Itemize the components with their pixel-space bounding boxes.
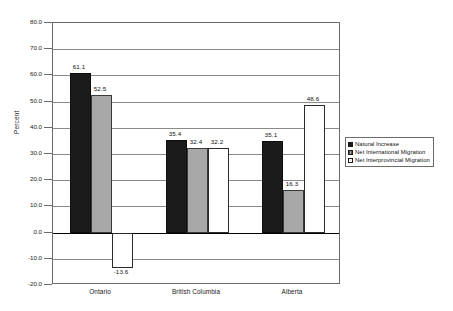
x-axis-label-british-columbia: British Columbia: [148, 288, 244, 295]
y-tick-label-0: 80.0: [0, 18, 42, 25]
bar-ontario-natural-increase: [70, 73, 91, 233]
y-tick-label-1: 70.0: [0, 44, 42, 51]
y-tick-label-7: 10.0: [0, 201, 42, 208]
bar-label-alberta-net-interprovincial-migration: 48.6: [295, 95, 332, 102]
y-tick-label-3: 50.0: [0, 97, 42, 104]
bar-british-columbia-net-international-migration: [187, 148, 208, 233]
bar-british-columbia-net-interprovincial-migration: [208, 148, 229, 232]
y-tick-1: [44, 48, 52, 49]
legend-item-natural-increase: Natural Increase: [348, 140, 430, 148]
bar-label-british-columbia-net-interprovincial-migration: 32.2: [199, 138, 236, 145]
bar-label-ontario-natural-increase: 61.1: [61, 63, 98, 70]
y-tick-label-10: -20.0: [0, 280, 42, 287]
legend-swatch-natural-increase: [348, 142, 353, 147]
y-tick-label-9: -10.0: [0, 254, 42, 261]
gridline--10: [53, 259, 339, 260]
bar-british-columbia-natural-increase: [166, 140, 187, 233]
x-axis-label-alberta: Alberta: [244, 288, 340, 295]
bar-label-alberta-natural-increase: 35.1: [253, 131, 290, 138]
bar-label-ontario-net-interprovincial-migration: -13.6: [103, 268, 140, 275]
bar-alberta-net-international-migration: [283, 190, 304, 233]
legend-item-net-international-migration: Net International Migration: [348, 148, 430, 156]
y-tick-5: [44, 153, 52, 154]
bar-ontario-net-international-migration: [91, 95, 112, 233]
y-tick-9: [44, 258, 52, 259]
legend-label-natural-increase: Natural Increase: [355, 140, 399, 148]
y-tick-label-8: 0.0: [0, 228, 42, 235]
y-tick-0: [44, 22, 52, 23]
y-tick-4: [44, 127, 52, 128]
bar-label-alberta-net-international-migration: 16.3: [274, 180, 311, 187]
bar-chart: Percent 80.070.060.050.040.030.020.010.0…: [0, 0, 453, 311]
gridline-70: [53, 49, 339, 50]
legend-item-net-interprovincial-migration: Net Interprovincial Migration: [348, 156, 430, 164]
bar-label-british-columbia-natural-increase: 35.4: [157, 130, 194, 137]
y-tick-10: [44, 284, 52, 285]
bar-ontario-net-interprovincial-migration: [112, 233, 133, 269]
y-tick-label-4: 40.0: [0, 123, 42, 130]
legend-label-net-international-migration: Net International Migration: [355, 148, 425, 156]
bar-label-ontario-net-international-migration: 52.5: [82, 85, 119, 92]
y-tick-2: [44, 74, 52, 75]
chart-legend: Natural Increase Net International Migra…: [345, 137, 434, 167]
x-axis-label-ontario: Ontario: [52, 288, 148, 295]
bar-alberta-net-interprovincial-migration: [304, 105, 325, 232]
legend-swatch-net-international-migration: [348, 150, 353, 155]
y-tick-label-6: 20.0: [0, 175, 42, 182]
y-tick-7: [44, 205, 52, 206]
y-tick-label-5: 30.0: [0, 149, 42, 156]
y-tick-label-2: 60.0: [0, 70, 42, 77]
gridline-60: [53, 75, 339, 76]
y-tick-8: [44, 232, 52, 233]
gridline-0: [53, 233, 339, 234]
plot-area: [52, 22, 340, 284]
legend-swatch-net-interprovincial-migration: [348, 158, 353, 163]
y-tick-3: [44, 101, 52, 102]
legend-label-net-interprovincial-migration: Net Interprovincial Migration: [355, 156, 430, 164]
y-tick-6: [44, 179, 52, 180]
